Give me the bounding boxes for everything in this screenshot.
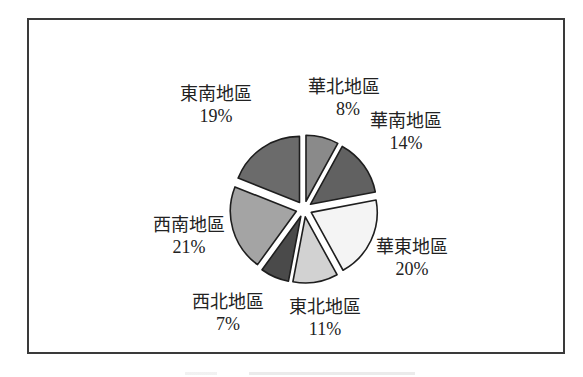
- label-xinan: 西南地區 21%: [153, 214, 225, 258]
- figure-caption-cutoff: [185, 372, 415, 375]
- label-dongnan: 東南地區 19%: [180, 83, 252, 127]
- label-xibei: 西北地區 7%: [192, 291, 264, 335]
- label-huanan: 華南地區 14%: [370, 110, 442, 154]
- label-huadong: 華東地區 20%: [376, 236, 448, 280]
- label-dongbei: 東北地區 11%: [289, 296, 361, 340]
